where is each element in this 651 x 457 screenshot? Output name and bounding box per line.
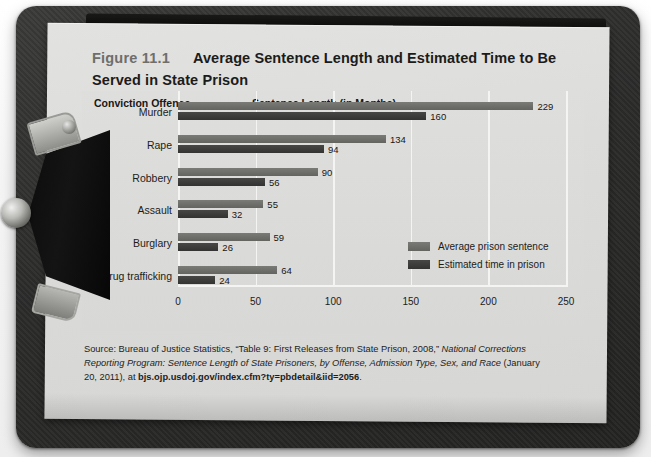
source-suffix: . [359,372,362,382]
source-url: bjs.ojp.usdoj.gov/index.cfm?ty=pbdetail&… [138,372,359,382]
clipboard-clip [0,112,112,317]
clip-body-shape [28,130,110,300]
figure-number: Figure 11.1 [92,50,170,66]
bar-value-label: 134 [390,134,406,145]
bar-value-label: 26 [222,242,233,253]
gridline [256,91,258,287]
legend-label: Average prison sentence [438,241,548,252]
bar [178,178,265,186]
category-label: Assault [138,204,172,216]
gridline [566,91,568,287]
bar-value-label: 59 [274,232,285,243]
clip-pin-icon [62,120,76,134]
bar-value-label: 32 [232,209,243,220]
gridline [178,91,180,287]
legend-label: Estimated time in prison [438,259,545,270]
source-note: Source: Bureau of Justice Statistics, “T… [84,343,554,385]
figure-paper-sheet: Figure 11.1 Average Sentence Length and … [44,23,609,423]
x-axis-tick-label: 250 [558,296,575,307]
category-label: Burglary [133,237,172,249]
x-axis-tick-label: 100 [325,296,342,307]
gridline [333,91,335,287]
bar [178,168,318,176]
bar [178,266,277,274]
chart-legend: Average prison sentence Estimated time i… [408,241,548,277]
x-axis-tick-label: 200 [480,296,497,307]
screenshot-scene: Figure 11.1 Average Sentence Length and … [0,0,651,457]
category-label: Rape [147,139,172,151]
bar [178,145,324,153]
legend-swatch-icon [408,260,430,269]
bar-value-label: 55 [267,199,278,210]
bar-value-label: 56 [269,177,280,188]
bar [178,233,270,241]
bar-value-label: 24 [219,275,230,286]
x-axis-line [178,285,566,287]
legend-swatch-icon [408,242,430,251]
bar [178,200,263,208]
figure-heading: Figure 11.1 Average Sentence Length and … [92,47,562,90]
legend-item-estimated-time-in-prison: Estimated time in prison [408,259,548,270]
bar [178,243,218,251]
bar [178,112,426,120]
bar [178,135,386,143]
bar-value-label: 94 [328,144,339,155]
category-label: Robbery [132,172,172,184]
bar [178,210,228,218]
source-prefix: Source: Bureau of Justice Statistics, “T… [84,344,442,354]
bar [178,276,215,284]
chart-panel: Conviction Offense Sentence Length (in M… [82,91,584,331]
bar-value-label: 160 [430,111,446,122]
category-label: Murder [139,106,172,118]
x-axis-tick-label: 150 [402,296,419,307]
x-axis-tick-label: 0 [175,296,181,307]
clip-lever-bottom-icon [31,283,81,323]
category-label: Drug trafficking [102,270,172,282]
clip-rivet-icon [1,198,31,228]
x-axis-tick-label: 50 [250,296,261,307]
legend-item-average-prison-sentence: Average prison sentence [408,241,548,252]
bar [178,102,533,110]
bar-value-label: 64 [281,265,292,276]
bar-value-label: 90 [322,167,333,178]
bar-value-label: 229 [537,101,553,112]
